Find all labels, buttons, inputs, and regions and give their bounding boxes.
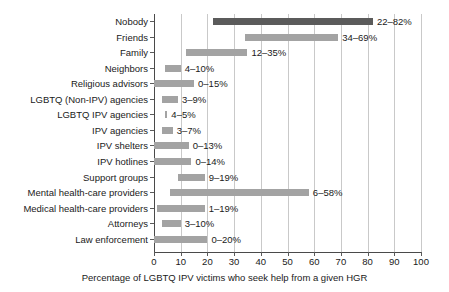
category-label: Mental health-care providers — [28, 185, 148, 200]
value-label: 12–35% — [251, 45, 286, 60]
category-label: Medical health-care providers — [23, 201, 148, 216]
range-bar — [154, 142, 189, 149]
category-label: Law enforcement — [75, 232, 148, 247]
category-label: IPV hotlines — [97, 154, 148, 169]
value-label: 1–19% — [209, 201, 239, 216]
category-label: Neighbors — [105, 61, 148, 76]
bar-row: Family12–35% — [0, 45, 449, 60]
x-axis-tick-label: 20 — [202, 256, 213, 268]
y-axis-tick — [150, 177, 154, 178]
range-bar — [157, 205, 205, 212]
x-axis-tick-label: 60 — [309, 256, 320, 268]
y-axis-tick — [150, 21, 154, 22]
category-label: IPV agencies — [92, 123, 148, 138]
x-axis-tick-label: 40 — [256, 256, 267, 268]
range-bar — [245, 34, 338, 41]
bar-row: IPV agencies3–7% — [0, 123, 449, 138]
range-bar-chart: Nobody22–82%Friends34–69%Family12–35%Nei… — [0, 0, 449, 292]
y-axis-tick — [150, 223, 154, 224]
bar-row: IPV shelters0–13% — [0, 138, 449, 153]
range-bar — [186, 49, 247, 56]
y-axis-tick — [150, 192, 154, 193]
value-label: 22–82% — [377, 14, 412, 29]
category-label: LGBTQ (Non-IPV) agencies — [30, 92, 148, 107]
range-bar — [162, 220, 181, 227]
bar-row: Friends34–69% — [0, 30, 449, 45]
y-axis-tick — [150, 37, 154, 38]
bar-row: LGBTQ IPV agencies4–5% — [0, 107, 449, 122]
range-bar — [178, 174, 205, 181]
value-label: 3–9% — [182, 92, 206, 107]
range-bar — [154, 80, 194, 87]
range-bar — [170, 189, 309, 196]
bar-row: Nobody22–82% — [0, 14, 449, 29]
value-label: 0–15% — [198, 76, 228, 91]
category-label: Friends — [116, 30, 148, 45]
value-label: 34–69% — [342, 30, 377, 45]
x-axis-tick-label: 90 — [389, 256, 400, 268]
bar-row: Support groups9–19% — [0, 170, 449, 185]
x-axis-tick-label: 80 — [362, 256, 373, 268]
category-label: Nobody — [115, 14, 148, 29]
value-label: 3–7% — [177, 123, 201, 138]
category-label: Religious advisors — [71, 76, 148, 91]
value-label: 4–10% — [185, 61, 215, 76]
bar-row: Medical health-care providers1–19% — [0, 201, 449, 216]
x-axis-tick-label: 70 — [336, 256, 347, 268]
range-bar — [154, 236, 207, 243]
value-label: 0–13% — [193, 138, 223, 153]
x-axis-tick-label: 10 — [175, 256, 186, 268]
bar-row: Religious advisors0–15% — [0, 76, 449, 91]
bar-row: Law enforcement0–20% — [0, 232, 449, 247]
value-label: 6–58% — [313, 185, 343, 200]
bar-row: Neighbors4–10% — [0, 61, 449, 76]
bar-row: IPV hotlines0–14% — [0, 154, 449, 169]
y-axis-tick — [150, 52, 154, 53]
y-axis-tick — [150, 208, 154, 209]
y-axis-tick — [150, 68, 154, 69]
x-axis-tick-label: 100 — [413, 256, 429, 268]
value-label: 3–10% — [185, 216, 215, 231]
range-bar — [162, 96, 178, 103]
x-axis-tick-label: 0 — [151, 256, 156, 268]
range-bar — [165, 65, 181, 72]
category-label: Attorneys — [108, 216, 148, 231]
value-label: 0–14% — [195, 154, 225, 169]
bar-row: LGBTQ (Non-IPV) agencies3–9% — [0, 92, 449, 107]
category-label: LGBTQ IPV agencies — [57, 107, 148, 122]
y-axis-tick — [150, 114, 154, 115]
range-bar — [162, 127, 173, 134]
range-bar — [213, 18, 373, 25]
range-bar — [165, 111, 168, 118]
category-label: Support groups — [83, 170, 148, 185]
x-axis-tick-label: 50 — [282, 256, 293, 268]
category-label: IPV shelters — [97, 138, 148, 153]
y-axis-tick — [150, 130, 154, 131]
x-axis-tick-label: 30 — [229, 256, 240, 268]
x-axis-title: Percentage of LGBTQ IPV victims who seek… — [0, 271, 449, 284]
category-label: Family — [120, 45, 148, 60]
value-label: 4–5% — [171, 107, 195, 122]
value-label: 9–19% — [209, 170, 239, 185]
range-bar — [154, 158, 191, 165]
y-axis-tick — [150, 99, 154, 100]
value-label: 0–20% — [211, 232, 241, 247]
bar-row: Attorneys3–10% — [0, 216, 449, 231]
bar-row: Mental health-care providers6–58% — [0, 185, 449, 200]
